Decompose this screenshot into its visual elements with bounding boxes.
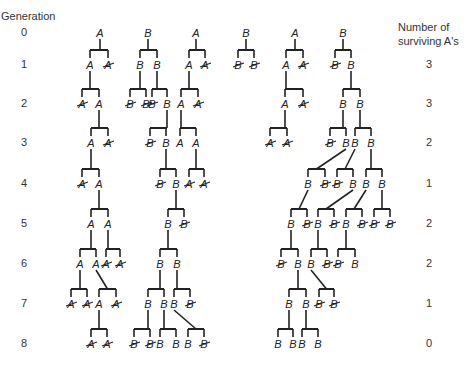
node-a: A (85, 59, 93, 71)
node-a: A (184, 59, 192, 71)
node-label: A (75, 258, 83, 270)
node-b: B (302, 298, 309, 310)
node-label: B (164, 218, 171, 230)
extinct-node-b: B (125, 98, 136, 110)
node-label: A (86, 137, 94, 149)
node-label: B (160, 298, 167, 310)
node-b: B (351, 137, 358, 149)
extinct-node-a: A (82, 298, 93, 310)
node-b: B (314, 338, 321, 350)
extinct-node-a: A (115, 258, 126, 270)
node-a: A (86, 218, 94, 230)
tree-branch-line (354, 190, 366, 209)
node-label: B (342, 137, 349, 149)
node-b: B (144, 298, 151, 310)
extinct-node-b: B (276, 258, 287, 270)
node-label: B (172, 178, 179, 190)
extinct-node-b: B (329, 298, 340, 310)
node-b: B (289, 338, 296, 350)
extinct-node-a: A (101, 258, 112, 270)
extinct-node-b: B (325, 137, 336, 149)
node-b: B (172, 178, 179, 190)
node-label: A (91, 258, 99, 270)
extinct-node-b: B (199, 338, 210, 350)
node-label: B (163, 98, 170, 110)
node-label: B (349, 178, 356, 190)
extinct-node-a: A (103, 137, 114, 149)
node-b: B (362, 178, 369, 190)
node-label: B (304, 178, 311, 190)
extinct-node-a: A (77, 98, 88, 110)
extinct-node-b: B (233, 59, 244, 71)
node-label: B (274, 338, 281, 350)
node-label: A (86, 218, 94, 230)
node-label: B (156, 338, 163, 350)
node-b: B (287, 218, 294, 230)
node-label: B (156, 258, 163, 270)
extinct-node-a: A (282, 137, 293, 149)
node-label: B (314, 218, 321, 230)
node-label: A (191, 137, 199, 149)
node-b: B (156, 338, 163, 350)
node-label: B (144, 298, 151, 310)
node-label: B (339, 98, 346, 110)
extinct-node-a: A (193, 98, 204, 110)
extinct-node-b: B (332, 178, 343, 190)
node-label: B (144, 27, 151, 39)
node-label: B (172, 338, 179, 350)
node-b: B (162, 137, 169, 149)
node-label: A (184, 59, 192, 71)
node-label: A (103, 218, 111, 230)
tree-branch-line (326, 190, 353, 209)
node-b: B (356, 98, 363, 110)
extinct-node-b: B (320, 178, 331, 190)
extinct-node-b: B (145, 338, 156, 350)
node-a: A (280, 98, 288, 110)
node-label: B (184, 338, 191, 350)
node-label: A (95, 27, 103, 39)
extinct-node-b: B (329, 218, 340, 230)
node-b: B (294, 258, 301, 270)
node-b: B (136, 59, 143, 71)
extinct-node-a: A (102, 338, 113, 350)
node-label: B (162, 137, 169, 149)
node-b: B (378, 178, 385, 190)
extinct-node-b: B (179, 218, 190, 230)
node-label: B (356, 98, 363, 110)
node-label: A (281, 59, 289, 71)
node-label: B (302, 298, 309, 310)
node-b: B (242, 27, 249, 39)
node-a: A (91, 258, 99, 270)
node-b: B (349, 178, 356, 190)
node-label: A (94, 178, 102, 190)
extinct-node-b: B (155, 178, 166, 190)
node-a: A (191, 137, 199, 149)
extinct-node-b: B (385, 218, 396, 230)
extinct-node-a: A (77, 178, 88, 190)
node-a: A (94, 178, 102, 190)
node-a: A (94, 98, 102, 110)
extinct-node-a: A (265, 137, 276, 149)
tree-branch-line (96, 270, 108, 289)
node-label: B (170, 298, 177, 310)
extinct-node-b: B (322, 258, 333, 270)
node-b: B (172, 338, 179, 350)
node-a: A (86, 137, 94, 149)
extinct-node-b: B (185, 298, 196, 310)
node-b: B (342, 218, 349, 230)
node-label: B (314, 338, 321, 350)
node-label: B (136, 59, 143, 71)
node-label: B (339, 27, 346, 39)
node-label: B (351, 258, 358, 270)
node-b: B (298, 338, 305, 350)
node-b: B (164, 218, 171, 230)
node-label: B (289, 338, 296, 350)
node-a: A (95, 27, 103, 39)
extinct-node-b: B (302, 218, 313, 230)
node-label: B (362, 178, 369, 190)
extinct-node-b: B (145, 137, 156, 149)
node-label: A (176, 98, 184, 110)
extinct-node-b: B (357, 218, 368, 230)
node-b: B (347, 59, 354, 71)
node-a: A (191, 27, 199, 39)
